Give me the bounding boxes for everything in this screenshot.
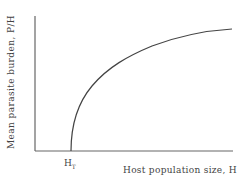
- x-axis-label: Host population size, H: [123, 165, 237, 175]
- threshold-subscript: T: [72, 163, 76, 170]
- threshold-tick-label: HT: [64, 158, 76, 170]
- y-axis-label: Mean parasite burden, P/H: [6, 19, 20, 149]
- threshold-symbol: H: [64, 158, 72, 168]
- parasite-burden-curve: [71, 29, 232, 151]
- chart-plot-area: [0, 0, 246, 181]
